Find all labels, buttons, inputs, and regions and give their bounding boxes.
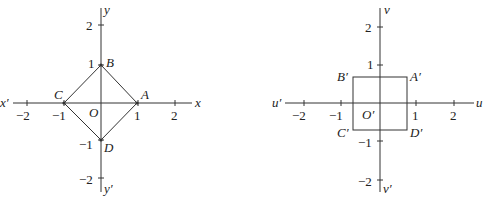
left-tick-x-1: 1 xyxy=(134,108,141,123)
left-tick-y-neg2: −2 xyxy=(79,172,93,187)
point-bprime-label: B′ xyxy=(337,69,348,84)
right-v-label: v xyxy=(384,2,390,17)
right-tick-u-neg2: −2 xyxy=(292,108,306,123)
diagram-canvas: x x′ y y′ −2 −1 1 2 2 1 −1 −2 O A B C D … xyxy=(0,0,486,210)
point-d-label: D xyxy=(103,140,114,155)
right-origin-label: O′ xyxy=(362,107,374,122)
right-tick-v-2: 2 xyxy=(365,20,372,35)
left-yprime-label: y′ xyxy=(102,181,113,196)
left-tick-y-2: 2 xyxy=(86,18,93,33)
left-tick-x-2: 2 xyxy=(171,108,178,123)
left-origin-label: O xyxy=(89,105,99,120)
right-uprime-label: u′ xyxy=(272,95,282,110)
right-tick-u-1: 1 xyxy=(412,108,419,123)
point-aprime-label: A′ xyxy=(409,69,421,84)
left-tick-x-neg1: −1 xyxy=(52,108,66,123)
left-y-label: y xyxy=(102,2,110,17)
left-tick-x-neg2: −2 xyxy=(16,108,30,123)
left-tick-y-1: 1 xyxy=(88,56,95,71)
point-b-label: B xyxy=(106,55,114,70)
right-tick-u-neg1: −1 xyxy=(329,108,343,123)
left-xprime-label: x′ xyxy=(0,95,9,110)
right-u-label: u xyxy=(476,95,483,110)
right-tick-v-1: 1 xyxy=(367,57,374,72)
left-x-label: x xyxy=(194,95,201,110)
right-tick-v-neg1: −1 xyxy=(358,135,372,150)
right-tick-v-neg2: −2 xyxy=(358,174,372,189)
right-vprime-label: v′ xyxy=(383,181,392,196)
point-a-label: A xyxy=(140,87,149,102)
right-tick-u-2: 2 xyxy=(450,108,457,123)
point-c-label: C xyxy=(54,87,63,102)
left-tick-y-neg1: −1 xyxy=(79,137,93,152)
point-dprime-label: D′ xyxy=(409,125,422,140)
point-cprime-label: C′ xyxy=(337,125,349,140)
